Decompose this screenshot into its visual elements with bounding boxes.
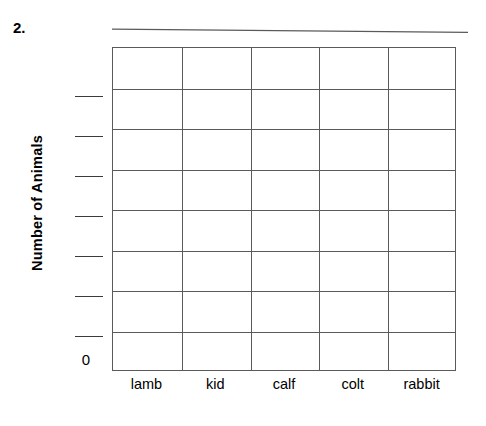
grid-column-line xyxy=(251,48,252,370)
grid-row-line xyxy=(113,291,455,292)
grid-column-line xyxy=(388,48,389,370)
y-axis-tick-group xyxy=(75,47,103,371)
y-axis-label: Number of Animals xyxy=(29,93,45,313)
grid-row-line xyxy=(113,129,455,130)
grid-row-line xyxy=(113,251,455,252)
y-axis-tick xyxy=(75,176,103,177)
y-axis-tick xyxy=(75,336,103,337)
grid-row-line xyxy=(113,170,455,171)
y-axis-tick xyxy=(75,136,103,137)
chart-title-blank-line[interactable] xyxy=(112,28,466,32)
chart-plot-area[interactable] xyxy=(112,47,456,371)
y-axis-tick xyxy=(75,96,103,97)
x-axis-label-kid: kid xyxy=(181,374,250,396)
grid-row-line xyxy=(113,89,455,90)
question-number: 2. xyxy=(13,20,26,35)
y-axis-tick xyxy=(75,296,103,297)
x-axis-label-colt: colt xyxy=(318,374,387,396)
grid-row-line xyxy=(113,210,455,211)
x-axis-label-rabbit: rabbit xyxy=(387,374,456,396)
grid-column-line xyxy=(319,48,320,370)
x-axis-label-group: lamb kid calf colt rabbit xyxy=(112,374,456,396)
y-axis-tick xyxy=(75,256,103,257)
grid-row-line xyxy=(113,332,455,333)
y-axis-zero-label: 0 xyxy=(70,352,90,367)
x-axis-label-lamb: lamb xyxy=(112,374,181,396)
y-axis-tick xyxy=(75,216,103,217)
grid-column-line xyxy=(182,48,183,370)
title-rule-icon xyxy=(112,28,472,34)
x-axis-label-calf: calf xyxy=(250,374,319,396)
